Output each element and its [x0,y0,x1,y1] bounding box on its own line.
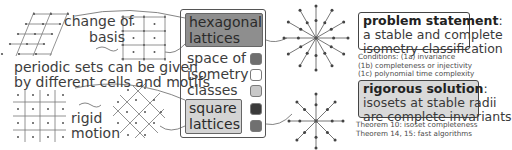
star-point [299,45,302,48]
star-point [295,100,298,103]
lattice-point [127,134,129,136]
square-lattice [13,90,66,142]
theorem-line2: Theorem 14, 15: fast algorithms [356,130,472,139]
lattice-point [47,94,49,96]
lattice-point [47,136,49,138]
square-lattices-box: square lattices [185,99,242,134]
star-point [315,103,318,106]
rigorous-solution-box: rigorous solution: isosets at stable rad… [358,80,479,118]
problem-statement-box: problem statement: a stable and complete… [358,12,470,50]
star-center [314,119,318,123]
star-point [342,21,345,24]
lattice-point [50,13,52,15]
lattice-point [62,136,64,138]
swatch-black [250,103,262,115]
swatch-white [250,69,262,81]
star-point [295,139,298,142]
space-label-line2: isometry [187,66,249,82]
star-point [332,37,335,40]
star-point [299,28,302,31]
lattice-point [164,16,166,18]
hexagonal-label-line1: hexagonal [189,14,259,30]
lattice-point [17,136,19,138]
star-point [298,120,301,123]
lattice-point [18,53,20,55]
star-point [315,19,318,22]
lattice-point [143,16,145,18]
star-point [330,45,333,48]
motif-point [154,37,156,39]
star-ray [297,121,316,140]
star-point [287,21,290,24]
star-point [342,120,345,123]
lattice-point [144,111,146,113]
star-point [315,5,318,8]
rigid-motion-label-line1: rigid [71,110,102,126]
lattice-point [25,23,27,25]
lattice-point [47,108,49,110]
star-point [315,69,318,72]
star-point [315,136,318,139]
star-point [315,147,318,150]
lattice-point [32,108,34,110]
lattice-point [32,136,34,138]
lattice-point [59,23,61,25]
lattice-point [153,99,155,101]
hexagonal-lattices-box: hexagonal lattices [185,13,263,47]
problem-title-text: problem statement [363,13,498,28]
change-of-basis-label-line1: change of [64,13,133,29]
rigid-motion-label-line2: motion [71,125,120,141]
star-point [347,37,350,40]
rotated-lattice-points [117,87,162,136]
lattice-point [144,134,146,136]
star-center [314,36,318,40]
swatch-medium-gray [250,120,262,132]
solution-line2: isosets at stable radii [363,96,474,110]
lattice-point [42,23,44,25]
star-point [326,131,329,134]
lattice-point [153,122,155,124]
lattice-point [32,122,34,124]
problem-line2: a stable and complete [363,28,465,42]
lattice-point [33,13,35,15]
lattice-point [126,111,128,113]
motif-point [133,37,135,39]
swatch-dark-gray [250,53,262,65]
lattice-point [62,94,64,96]
lattice-point [43,43,45,45]
star-point [306,52,309,55]
lattice-point [17,33,19,35]
lattice-point [47,122,49,124]
lattice-point [135,122,137,124]
star-point [306,21,309,24]
star-point [299,64,302,67]
lattice-point [9,43,11,45]
motif-point [154,51,156,53]
star-point [326,108,329,111]
star-ray [316,121,335,140]
star-point [299,9,302,12]
lattice-point [117,101,119,103]
solution-title-text: rigorous solution [363,81,483,96]
solution-title-colon: : [483,81,487,96]
star-point [334,139,337,142]
lattice-point [17,108,19,110]
lattice-point [51,33,53,35]
rotated-lattice [113,83,165,138]
motif-point [154,23,156,25]
star-ray [316,102,335,121]
square-star [288,93,345,150]
star-point [331,120,334,123]
problem-title: problem statement: [363,14,465,28]
periodic-sets-text-line1: periodic sets can be given [14,59,198,75]
lattice-point [34,33,36,35]
change-of-basis-label-line2: basis [89,29,125,45]
star-point [283,37,286,40]
star-point [331,64,334,67]
star-point [342,53,345,56]
hexagonal-star [283,5,350,72]
star-point [323,21,326,24]
star-point [315,93,318,96]
lattice-point [26,43,28,45]
star-point [303,108,306,111]
